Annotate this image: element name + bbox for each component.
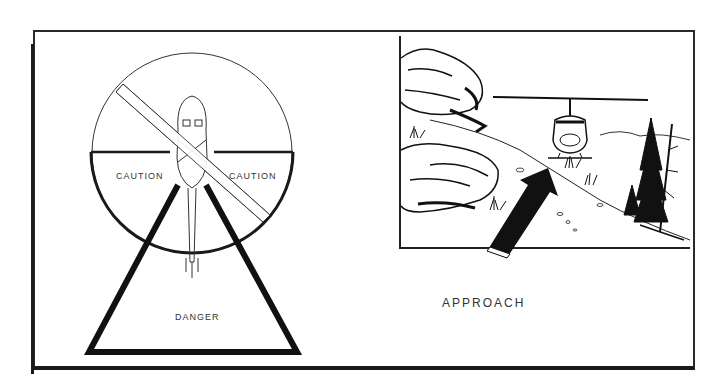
caution-label-right: CAUTION <box>229 171 277 181</box>
rotor-zone-diagram <box>89 53 297 352</box>
caution-label-left: CAUTION <box>116 171 164 181</box>
approach-scene <box>400 36 690 258</box>
helicopter-top-view-icon <box>177 96 207 278</box>
distant-ridge <box>600 132 690 140</box>
diagram-artwork <box>0 0 724 384</box>
danger-label: DANGER <box>175 312 220 322</box>
approach-caption: APPROACH <box>442 296 525 310</box>
helicopter-front-view-icon <box>493 97 648 158</box>
danger-zone-triangle <box>89 185 297 352</box>
